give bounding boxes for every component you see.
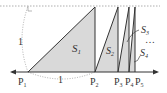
diagram-canvas: 1 1 S1 S2 S3 S4 … P1 P2 P3 P4 P5 — [0, 0, 167, 93]
base-label: 1 — [58, 74, 63, 85]
point-label-p2: P2 — [90, 76, 99, 88]
area-label-s4: S4 — [140, 47, 148, 59]
point-label-p4: P4 — [125, 76, 134, 88]
height-label: 1 — [18, 36, 23, 47]
left-arrow-icon — [10, 70, 16, 75]
right-arrow-icon — [153, 70, 159, 75]
point-label-p1: P1 — [18, 76, 27, 88]
point-label-p3: P3 — [114, 76, 123, 88]
triangle-sequence-diagram: 1 1 S1 S2 S3 S4 … P1 P2 P3 P4 P5 — [0, 0, 167, 93]
point-label-p5: P5 — [135, 76, 144, 88]
right-angle-mark — [28, 6, 32, 11]
ellipsis: … — [145, 34, 155, 45]
